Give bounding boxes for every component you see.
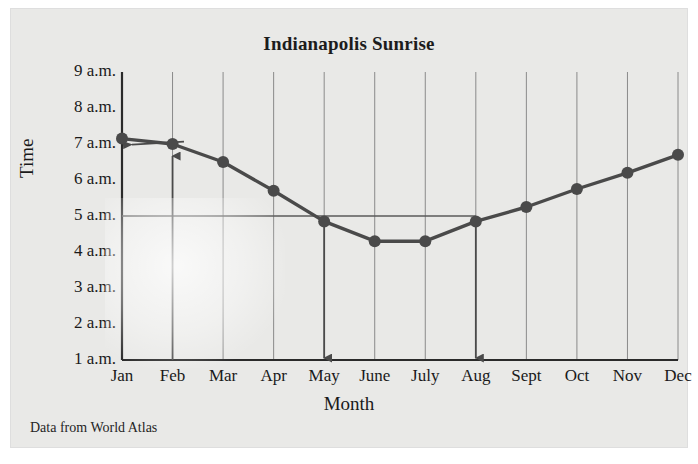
- data-point-june: [369, 235, 381, 247]
- data-point-apr: [268, 185, 280, 197]
- data-point-dec: [672, 149, 684, 161]
- plot-area: [10, 8, 688, 448]
- data-point-oct: [571, 183, 583, 195]
- chart-page: Indianapolis Sunrise Time Month 1 a.m.2 …: [0, 0, 698, 464]
- series-line: [122, 139, 678, 242]
- scanned-figure-panel: Indianapolis Sunrise Time Month 1 a.m.2 …: [10, 8, 688, 448]
- series-markers: [116, 133, 684, 248]
- data-point-mar: [217, 156, 229, 168]
- data-point-jan: [116, 133, 128, 145]
- data-series-sunrise: [116, 133, 684, 248]
- data-point-sept: [520, 201, 532, 213]
- data-point-nov: [621, 167, 633, 179]
- data-point-july: [419, 235, 431, 247]
- data-point-feb: [167, 138, 179, 150]
- data-point-may: [318, 215, 330, 227]
- annotation-layer: [122, 142, 476, 360]
- data-point-aug: [470, 215, 482, 227]
- source-note: Data from World Atlas: [30, 420, 157, 436]
